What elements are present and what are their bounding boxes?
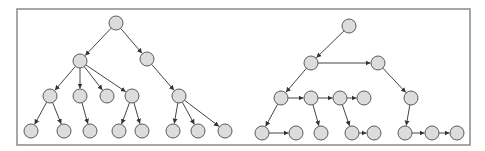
edge-arrow <box>313 105 319 126</box>
edge-arrow <box>185 100 219 126</box>
diagram-frame <box>17 9 470 145</box>
tree-node <box>43 89 57 103</box>
edge-arrow <box>286 68 307 92</box>
nodes-layer <box>24 16 464 140</box>
tree-node <box>191 124 205 138</box>
edge-arrow <box>122 103 130 124</box>
edge-arrow <box>35 102 47 124</box>
tree-node <box>255 126 269 140</box>
tree-node <box>218 124 232 138</box>
tree-node <box>73 54 87 68</box>
tree-node <box>289 126 303 140</box>
tree-node <box>333 91 347 105</box>
tree-node <box>304 91 318 105</box>
tree-node <box>342 19 356 33</box>
tree-node <box>73 89 87 103</box>
tree-diagram <box>0 0 485 151</box>
tree-node <box>314 126 328 140</box>
tree-node <box>125 89 139 103</box>
edges-layer <box>35 28 450 133</box>
tree-node <box>425 126 439 140</box>
edge-arrow <box>182 102 194 124</box>
edge-arrow <box>383 68 406 92</box>
tree-node <box>109 16 123 30</box>
edge-arrow <box>406 105 410 126</box>
edge-arrow <box>266 104 278 126</box>
edge-arrow <box>174 103 178 124</box>
tree-node <box>140 52 154 66</box>
edge-arrow <box>152 64 175 90</box>
tree-node <box>57 124 71 138</box>
edge-arrow <box>121 28 143 53</box>
edge-arrow <box>82 103 88 124</box>
tree-node <box>345 126 359 140</box>
tree-node <box>450 126 464 140</box>
tree-node <box>398 126 412 140</box>
edge-arrow <box>316 31 344 58</box>
tree-node <box>404 91 418 105</box>
edge-arrow <box>85 28 111 55</box>
tree-node <box>24 124 38 138</box>
tree-node <box>112 124 126 138</box>
tree-node <box>83 124 97 138</box>
edge-arrow <box>134 103 140 124</box>
tree-node <box>100 89 114 103</box>
edge-arrow <box>55 66 76 90</box>
diagram-canvas <box>0 0 485 151</box>
tree-node <box>304 56 318 70</box>
tree-node <box>172 89 186 103</box>
edge-arrow <box>53 102 62 124</box>
tree-node <box>367 126 381 140</box>
edge-arrow <box>86 65 126 92</box>
tree-node <box>357 91 371 105</box>
tree-node <box>371 56 385 70</box>
tree-node <box>274 91 288 105</box>
tree-node <box>135 124 149 138</box>
edge-arrow <box>342 105 349 126</box>
tree-node <box>166 124 180 138</box>
